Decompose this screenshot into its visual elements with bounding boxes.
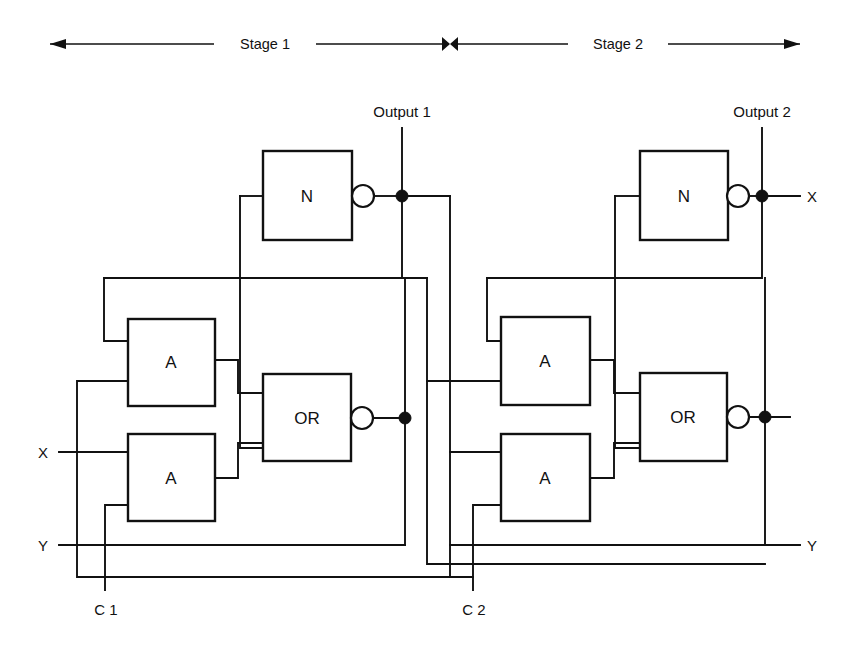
s1-or-output-bubble-icon — [351, 407, 373, 429]
arrow-left-icon — [50, 39, 66, 49]
double-arrow-icon-left — [442, 37, 450, 51]
stage-scale-bar: Stage 1 Stage 2 — [50, 36, 800, 52]
stage1-label: Stage 1 — [240, 36, 290, 52]
s1-not-output-bubble-icon — [352, 185, 374, 207]
s2-or-junction-dot — [759, 411, 771, 423]
c1-clock-label: C 1 — [94, 601, 117, 618]
s2-not-gate-label: N — [678, 187, 690, 206]
c2-clock-wire — [473, 505, 501, 590]
y-feedback-label: Y — [807, 537, 817, 554]
s1-out-branch-wire — [402, 196, 427, 278]
stage2-gates: N A A OR — [501, 151, 771, 521]
s2-not-output-bubble-icon — [727, 185, 749, 207]
s1-or-feedback-to-and-wire — [104, 278, 128, 341]
y-lower-rail-wire — [77, 545, 473, 577]
stage1-gates: N A A OR — [128, 151, 411, 521]
s1-not-gate-label: N — [301, 187, 313, 206]
circuit-diagram-canvas: Stage 1 Stage 2 — [0, 0, 859, 659]
arrow-right-icon — [784, 39, 800, 49]
x-input-label: X — [38, 444, 48, 461]
output1-label: Output 1 — [373, 103, 431, 120]
s2-out-branch-to-and-wire — [487, 278, 501, 341]
s2-output2-junction-dot — [756, 190, 768, 202]
s2-or-output-bubble-icon — [727, 406, 749, 428]
s1-or-junction-dot — [399, 412, 411, 424]
s1-output1-junction-dot — [396, 190, 408, 202]
s1-and-top-to-or-wire — [214, 360, 263, 393]
diagram-page: Stage 1 Stage 2 — [0, 0, 859, 659]
s1-and-top-gate-label: A — [165, 353, 177, 372]
c2-clock-label: C 2 — [462, 601, 485, 618]
output2-label: Output 2 — [733, 103, 791, 120]
stage2-label: Stage 2 — [593, 36, 643, 52]
s1-and-bottom-gate-label: A — [165, 469, 177, 488]
x-feedback-label: X — [807, 188, 817, 205]
s2-and-bottom-gate-label: A — [539, 469, 551, 488]
y-branch-to-and-top-wire — [77, 381, 128, 545]
y-input-label: Y — [38, 537, 48, 554]
s1-or-gate-label: OR — [294, 409, 320, 428]
s2-and-top-gate-label: A — [539, 352, 551, 371]
s2-or-gate-label: OR — [670, 408, 696, 427]
